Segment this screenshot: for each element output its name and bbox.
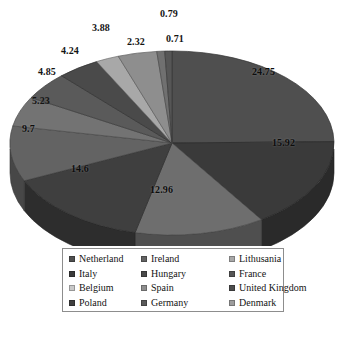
legend-item-label: Hungary: [151, 269, 186, 279]
legend-item[interactable]: Hungary: [141, 269, 229, 279]
legend-item-label: United Kingdom: [239, 283, 307, 293]
pie-data-label: 12.96: [150, 184, 173, 195]
legend-swatch-icon: [141, 285, 147, 291]
pie-data-label: 24.75: [252, 66, 275, 77]
legend-swatch-icon: [69, 271, 75, 277]
pie-data-label: 2.32: [127, 36, 145, 47]
pie-chart: 24.7515.9212.9614.69.75.234.854.243.882.…: [0, 0, 346, 246]
pie-slice: [172, 51, 334, 143]
pie-data-label: 5.23: [32, 95, 50, 106]
legend-item-label: Italy: [79, 269, 97, 279]
legend-item[interactable]: Netherland: [69, 254, 141, 264]
legend-item-label: Denmark: [239, 298, 276, 308]
legend-swatch-icon: [141, 271, 147, 277]
chart-legend: NetherlandIrelandLithusaniaItalyHungaryF…: [62, 248, 284, 312]
legend-item[interactable]: France: [229, 269, 291, 279]
legend-item[interactable]: Belgium: [69, 283, 141, 293]
legend-swatch-icon: [229, 285, 235, 291]
legend-item[interactable]: Ireland: [141, 254, 229, 264]
pie-data-label: 15.92: [272, 137, 295, 148]
pie-data-label: 9.7: [22, 123, 35, 134]
pie-data-label: 0.71: [166, 33, 184, 44]
legend-swatch-icon: [141, 256, 147, 262]
legend-swatch-icon: [229, 271, 235, 277]
legend-item-label: Belgium: [79, 283, 113, 293]
legend-item[interactable]: Denmark: [229, 298, 291, 308]
legend-item[interactable]: Italy: [69, 269, 141, 279]
legend-item-label: Spain: [151, 283, 174, 293]
pie-data-label: 4.85: [38, 66, 56, 77]
legend-item[interactable]: Germany: [141, 298, 229, 308]
pie-data-label: 14.6: [71, 163, 89, 174]
pie-data-label: 4.24: [61, 45, 79, 56]
legend-item[interactable]: Poland: [69, 298, 141, 308]
legend-swatch-icon: [229, 256, 235, 262]
legend-swatch-icon: [141, 300, 147, 306]
legend-swatch-icon: [69, 300, 75, 306]
legend-item[interactable]: Spain: [141, 283, 229, 293]
legend-item-label: Lithusania: [239, 254, 281, 264]
pie-data-label: 0.79: [160, 8, 178, 19]
pie-data-label: 3.88: [92, 22, 110, 33]
legend-item[interactable]: Lithusania: [229, 254, 291, 264]
legend-swatch-icon: [69, 256, 75, 262]
legend-item[interactable]: United Kingdom: [229, 283, 291, 293]
legend-item-label: France: [239, 269, 266, 279]
legend-item-label: Ireland: [151, 254, 179, 264]
legend-swatch-icon: [229, 300, 235, 306]
legend-item-label: Poland: [79, 298, 107, 308]
legend-item-label: Germany: [151, 298, 188, 308]
legend-item-label: Netherland: [79, 254, 123, 264]
legend-swatch-icon: [69, 285, 75, 291]
legend-grid: NetherlandIrelandLithusaniaItalyHungaryF…: [63, 252, 283, 310]
